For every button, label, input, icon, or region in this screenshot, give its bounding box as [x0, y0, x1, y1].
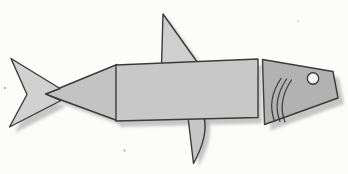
speck-1 — [4, 87, 6, 89]
speck-3 — [297, 20, 299, 22]
speck-2 — [124, 150, 126, 152]
eye — [307, 73, 318, 84]
shape-layer — [4, 14, 338, 164]
body-front-triangle — [45, 65, 117, 121]
shark-figure-svg — [0, 0, 348, 174]
dorsal-fin — [162, 14, 201, 66]
body-rectangle — [116, 59, 258, 121]
shark-illustration — [0, 0, 348, 174]
